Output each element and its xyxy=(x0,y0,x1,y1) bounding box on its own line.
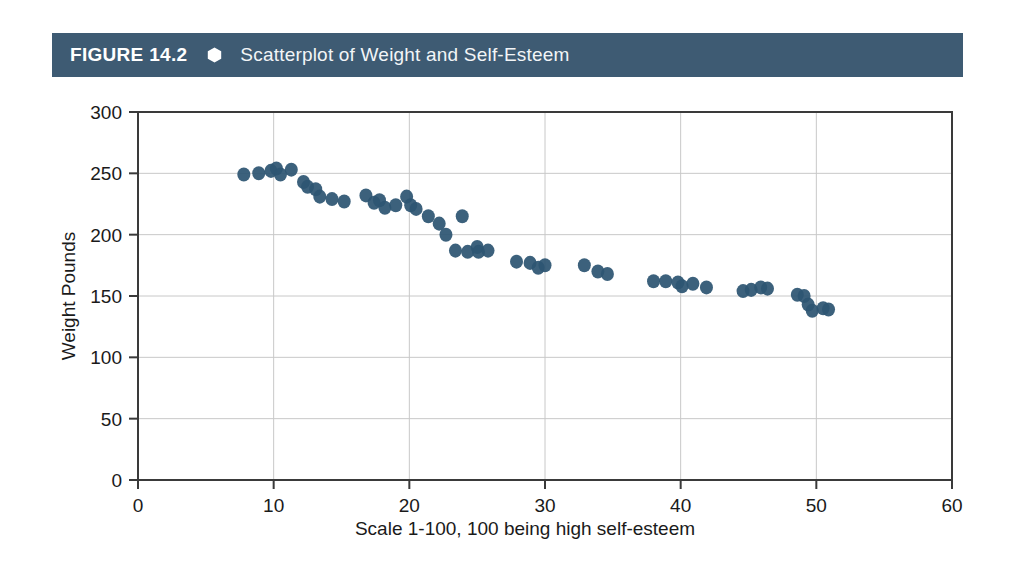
data-point xyxy=(539,258,552,272)
y-tick-label: 300 xyxy=(90,102,122,123)
data-point xyxy=(601,267,614,281)
scatter-chart-svg: 0102030405060 050100150200250300 Scale 1… xyxy=(0,0,1015,579)
data-point xyxy=(449,244,462,258)
data-point xyxy=(676,279,689,293)
data-point xyxy=(410,202,423,216)
data-point xyxy=(456,209,469,223)
axis-ticks-group xyxy=(129,112,952,489)
y-tick-label: 100 xyxy=(90,347,122,368)
x-axis-label: Scale 1-100, 100 being high self-esteem xyxy=(355,518,695,539)
y-tick-label: 250 xyxy=(90,163,122,184)
data-point xyxy=(647,274,660,288)
data-point xyxy=(439,228,452,242)
data-point xyxy=(822,302,835,316)
data-points-group xyxy=(237,161,835,317)
x-tick-label: 50 xyxy=(806,495,827,516)
figure-container: FIGURE 14.2 Scatterplot of Weight and Se… xyxy=(0,0,1015,579)
data-point xyxy=(378,201,391,215)
data-point xyxy=(510,255,523,269)
data-point xyxy=(338,195,351,209)
data-point xyxy=(761,282,774,296)
x-tick-label: 60 xyxy=(941,495,962,516)
y-tick-label: 50 xyxy=(101,409,122,430)
x-tick-label: 10 xyxy=(263,495,284,516)
y-tick-label: 200 xyxy=(90,225,122,246)
data-point xyxy=(686,277,699,291)
x-tick-label: 0 xyxy=(133,495,144,516)
y-axis-label: Weight Pounds xyxy=(58,232,79,361)
y-tick-label: 150 xyxy=(90,286,122,307)
data-point xyxy=(326,192,339,206)
x-tick-label: 40 xyxy=(670,495,691,516)
data-point xyxy=(578,258,591,272)
data-point xyxy=(806,304,819,318)
data-point xyxy=(252,166,265,180)
data-point xyxy=(482,244,495,258)
x-tick-labels-group: 0102030405060 xyxy=(133,495,963,516)
chart-plot-area: 0102030405060 050100150200250300 Scale 1… xyxy=(0,0,1015,579)
x-tick-label: 30 xyxy=(534,495,555,516)
y-tick-labels-group: 050100150200250300 xyxy=(90,102,122,491)
x-tick-label: 20 xyxy=(399,495,420,516)
data-point xyxy=(659,274,672,288)
data-point xyxy=(285,163,298,177)
data-point xyxy=(422,209,435,223)
y-tick-label: 0 xyxy=(111,470,122,491)
data-point xyxy=(237,168,250,182)
data-point xyxy=(700,280,713,294)
data-point xyxy=(313,190,326,204)
data-point xyxy=(389,198,402,212)
